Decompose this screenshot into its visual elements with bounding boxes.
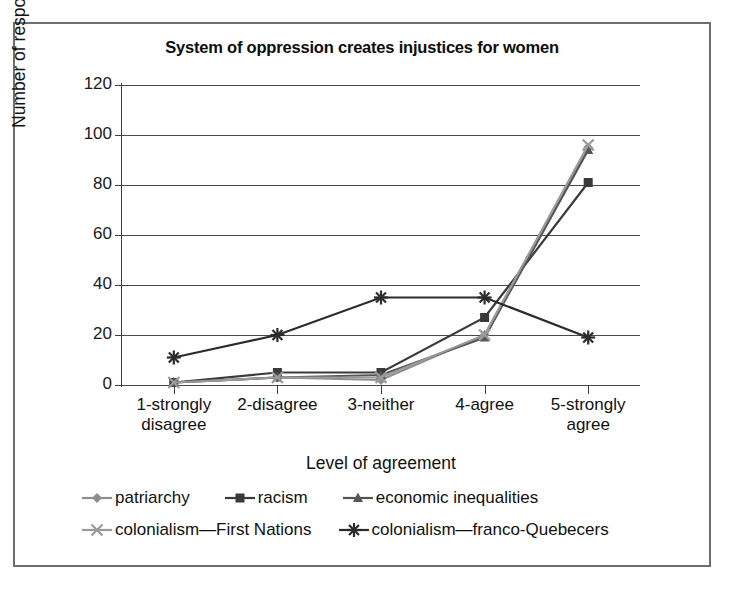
- data-point-asterisk: [478, 291, 492, 305]
- x-tick: [588, 385, 589, 394]
- legend-item[interactable]: economic inequalities: [342, 488, 539, 508]
- legend-marker-asterisk: [338, 521, 370, 539]
- legend-item[interactable]: racism: [224, 488, 308, 508]
- legend-marker-x: [81, 521, 113, 539]
- data-point-square: [480, 313, 489, 322]
- y-tick-label: 20: [60, 324, 112, 344]
- x-tick: [485, 385, 486, 394]
- chart-legend: patriarchyracismeconomic inequalitiescol…: [81, 488, 661, 552]
- data-point-diamond: [92, 493, 102, 503]
- y-tick: [115, 385, 123, 386]
- legend-marker-triangle: [342, 489, 374, 507]
- series-line: [174, 298, 588, 358]
- legend-marker: [81, 521, 113, 539]
- legend-label: racism: [258, 488, 308, 508]
- legend-label: patriarchy: [115, 488, 190, 508]
- legend-row: colonialism—First Nationscolonialism—fra…: [81, 520, 661, 552]
- legend-label: economic inequalities: [376, 488, 539, 508]
- legend-item[interactable]: patriarchy: [81, 488, 190, 508]
- legend-marker-diamond: [81, 489, 113, 507]
- legend-marker: [81, 489, 113, 507]
- y-tick-label: 120: [60, 74, 112, 94]
- data-point-asterisk: [374, 291, 388, 305]
- y-tick-label: 40: [60, 274, 112, 294]
- y-tick-label: 60: [60, 224, 112, 244]
- legend-item[interactable]: colonialism—franco-Quebecers: [338, 520, 609, 540]
- x-axis-title: Level of agreement: [122, 453, 640, 474]
- plot-area: 020406080100120 1-stronglydisagree2-disa…: [122, 85, 640, 385]
- y-tick-label: 0: [60, 374, 112, 394]
- legend-item[interactable]: colonialism—First Nations: [81, 520, 312, 540]
- legend-marker: [342, 489, 374, 507]
- x-tick-label-line: agree: [524, 415, 652, 435]
- legend-label: colonialism—First Nations: [115, 520, 312, 540]
- x-tick: [381, 385, 382, 394]
- x-tick: [277, 385, 278, 394]
- series-lines: [122, 85, 640, 385]
- x-tick-label-line: disagree: [110, 415, 238, 435]
- legend-marker: [224, 489, 256, 507]
- y-tick-label: 100: [60, 124, 112, 144]
- data-point-square: [235, 494, 244, 503]
- series-line: [174, 183, 588, 383]
- legend-label: colonialism—franco-Quebecers: [372, 520, 609, 540]
- data-point-square: [584, 178, 593, 187]
- y-axis-title: Number of respondents: [9, 0, 30, 128]
- legend-row: patriarchyracismeconomic inequalities: [81, 488, 661, 520]
- x-tick-label: 5-stronglyagree: [524, 395, 652, 435]
- figure-frame: System of oppression creates injustices …: [13, 22, 711, 567]
- y-tick-label: 80: [60, 174, 112, 194]
- data-point-asterisk: [347, 523, 361, 537]
- data-point-asterisk: [270, 328, 284, 342]
- series-line: [174, 150, 588, 383]
- legend-marker: [338, 521, 370, 539]
- data-point-asterisk: [581, 331, 595, 345]
- legend-marker-square: [224, 489, 256, 507]
- x-tick-label-line: 5-strongly: [524, 395, 652, 415]
- data-point-asterisk: [167, 351, 181, 365]
